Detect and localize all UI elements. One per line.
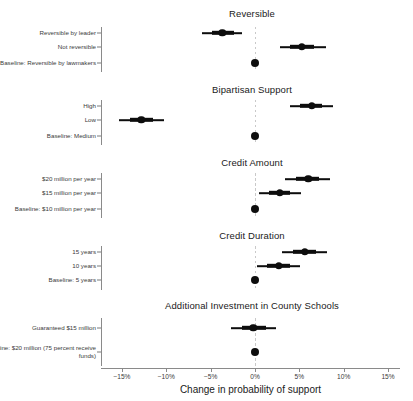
panel-title: Bipartisan Support <box>104 84 400 95</box>
x-axis-tick-label: 10% <box>337 373 350 380</box>
x-axis-tick-label: 5% <box>295 373 305 380</box>
y-axis-tick <box>97 179 101 180</box>
category-label: Baseline: $20 million (75 percent receiv… <box>0 344 96 359</box>
category-label: Reversible by leader <box>0 29 96 37</box>
x-axis-tick-label: −5% <box>204 373 217 380</box>
x-axis-tick-label: −10% <box>158 373 175 380</box>
y-axis-tick <box>97 193 101 194</box>
category-label: Baseline: Medium <box>0 132 96 140</box>
estimate-point <box>308 102 315 109</box>
x-axis-tick <box>255 368 256 372</box>
category-label: 10 years <box>0 262 96 270</box>
x-axis-tick <box>344 368 345 372</box>
category-label: $15 million per year <box>0 189 96 197</box>
category-label: Baseline: $10 million per year <box>0 205 96 213</box>
x-axis-tick-label: −15% <box>113 373 130 380</box>
x-axis-tick-label: 15% <box>381 373 394 380</box>
x-axis-tick <box>166 368 167 372</box>
category-label: Baseline: Reversible by lawmakers <box>0 59 96 67</box>
baseline-point <box>251 132 259 140</box>
y-axis-tick <box>97 328 101 329</box>
category-label: Guaranteed $15 million <box>0 324 96 332</box>
panel-y-axis-line <box>101 318 102 366</box>
estimate-point <box>305 175 312 182</box>
x-axis-tick-label: 0% <box>250 373 260 380</box>
estimate-point <box>301 248 308 255</box>
y-axis-tick <box>97 47 101 48</box>
x-axis-tick <box>388 368 389 372</box>
panel-y-axis-line <box>101 27 102 72</box>
y-axis-tick <box>97 266 101 267</box>
y-axis-tick <box>97 352 101 353</box>
category-label: High <box>0 102 96 110</box>
estimate-point <box>275 262 282 269</box>
estimate-point <box>276 189 283 196</box>
y-axis-tick <box>97 63 101 64</box>
panel-title: Reversible <box>104 8 400 19</box>
y-axis-tick <box>97 280 101 281</box>
panel-y-axis-line <box>101 246 102 290</box>
category-label: 15 years <box>0 248 96 256</box>
panel-title: Credit Amount <box>104 157 400 168</box>
y-axis-tick <box>97 209 101 210</box>
x-axis-tick <box>211 368 212 372</box>
x-axis-tick <box>299 368 300 372</box>
estimate-point <box>298 43 305 50</box>
y-axis-tick <box>97 120 101 121</box>
baseline-point <box>251 205 259 213</box>
baseline-point <box>251 348 259 356</box>
category-label: Low <box>0 116 96 124</box>
panel-y-axis-line <box>101 173 102 218</box>
category-label: Baseline: 5 years <box>0 276 96 284</box>
x-axis-line <box>101 368 400 369</box>
y-axis-tick <box>97 33 101 34</box>
x-axis-title: Change in probability of support <box>101 384 400 395</box>
y-axis-tick <box>97 106 101 107</box>
panel-title: Credit Duration <box>104 230 400 241</box>
category-label: Not reversible <box>0 43 96 51</box>
panel-title: Additional Investment in County Schools <box>104 300 400 311</box>
category-label: $20 million per year <box>0 175 96 183</box>
x-axis-tick <box>122 368 123 372</box>
coefficient-plot: ReversibleReversible by leaderNot revers… <box>0 0 413 401</box>
panel-y-axis-line <box>101 100 102 145</box>
y-axis-tick <box>97 136 101 137</box>
estimate-point <box>218 29 225 36</box>
estimate-point <box>138 116 145 123</box>
baseline-point <box>251 276 259 284</box>
baseline-point <box>251 59 259 67</box>
y-axis-tick <box>97 252 101 253</box>
